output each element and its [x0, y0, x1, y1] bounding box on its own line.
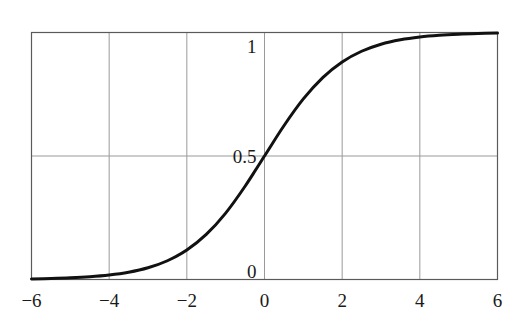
- x-tick-label: 2: [337, 291, 347, 310]
- y-tick-label: 0: [247, 262, 257, 281]
- y-tick-label: 0.5: [233, 147, 257, 166]
- x-tick-label: 4: [415, 291, 425, 310]
- x-tick-label: −4: [99, 291, 119, 310]
- sigmoid-chart-figure: −6−4−20246 10.50: [0, 0, 520, 329]
- x-tick-label: 6: [493, 291, 503, 310]
- x-tick-label: −6: [21, 291, 41, 310]
- x-tick-label: −2: [177, 291, 197, 310]
- y-tick-label: 1: [247, 37, 257, 56]
- chart-plot-area: [0, 0, 520, 329]
- x-tick-label: 0: [260, 291, 270, 310]
